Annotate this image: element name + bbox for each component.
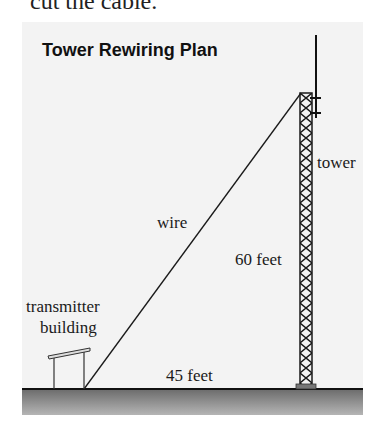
building-label-line1: transmitter xyxy=(26,297,100,317)
tower-base xyxy=(296,384,316,389)
tower-label: tower xyxy=(317,153,356,173)
wire xyxy=(84,93,301,389)
height-label: 60 feet xyxy=(235,250,282,270)
diagram-title: Tower Rewiring Plan xyxy=(42,40,218,61)
distance-label: 45 feet xyxy=(166,366,213,386)
wire-label: wire xyxy=(157,213,187,233)
tower xyxy=(300,93,312,386)
building-label-line2: building xyxy=(40,318,97,338)
